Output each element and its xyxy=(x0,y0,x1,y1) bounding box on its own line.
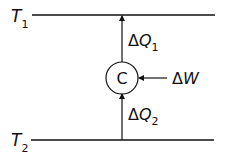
heat-engine-diagram: T1 T2 C ΔQ1 ΔQ2 ΔW xyxy=(0,0,227,163)
device-label: C xyxy=(116,69,127,88)
cold-reservoir-label: T2 xyxy=(11,130,28,155)
work-in-label: ΔW xyxy=(172,69,200,88)
hot-reservoir-label: T1 xyxy=(11,6,28,31)
heat-out-label: ΔQ1 xyxy=(128,31,159,54)
heat-in-label: ΔQ2 xyxy=(128,105,159,128)
